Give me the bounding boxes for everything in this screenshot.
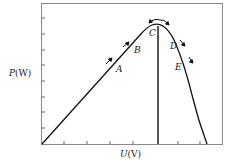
x-axis-label: U(V) xyxy=(120,149,141,159)
plot-frame xyxy=(42,4,223,145)
point-label-d: D xyxy=(169,41,177,51)
point-label-c: C xyxy=(149,28,156,38)
point-label-b: B xyxy=(133,45,141,55)
y-axis-label: P(W) xyxy=(8,68,31,78)
point-label-e: E xyxy=(174,62,182,72)
x-axis-ticks xyxy=(64,141,200,144)
pu-curve-chart: A B C D E P(W) U(V) xyxy=(0,0,225,160)
y-axis-ticks xyxy=(42,18,45,128)
point-label-a: A xyxy=(115,64,123,74)
arrow-e-icon xyxy=(190,60,194,64)
